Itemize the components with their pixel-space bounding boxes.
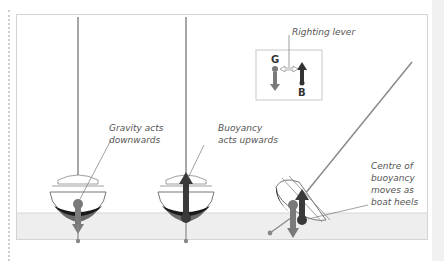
label-righting-lever: Righting lever [292, 26, 355, 38]
centre-of-buoyancy-dot [181, 213, 191, 223]
label-B: B [298, 87, 306, 98]
righting-lever-inset [256, 35, 322, 100]
label-gravity: Gravity acts downwards [109, 122, 163, 146]
gravity-leader-line [80, 140, 111, 199]
boat-gravity [50, 17, 111, 243]
label-centre-of-buoyancy: Centre of buoyancy moves as boat heels [371, 160, 418, 208]
label-buoyancy: Buoyancy acts upwards [218, 122, 278, 146]
buoyancy-arrow-shaft [183, 182, 189, 214]
centre-of-gravity-dot [73, 199, 83, 209]
label-G: G [271, 54, 279, 65]
boat-buoyancy [158, 17, 214, 243]
